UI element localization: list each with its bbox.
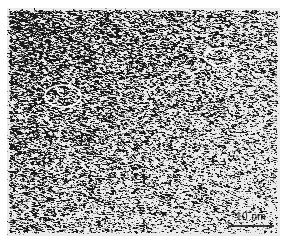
scale-bar-label: 10 nm [236,211,266,222]
tem-micrograph [7,8,280,236]
